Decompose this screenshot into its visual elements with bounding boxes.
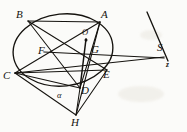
geometry-figure: A B C D E F G H O S α z — [0, 0, 187, 132]
point-label-H: H — [71, 117, 79, 128]
ray-S-upper — [147, 12, 168, 61]
point-label-C: C — [3, 70, 10, 81]
z-ray-group — [147, 12, 168, 61]
figure-canvas — [0, 0, 187, 132]
segment-C-H — [15, 73, 76, 115]
point-markers-group — [85, 39, 88, 42]
center-point-O-dot — [85, 39, 88, 42]
point-label-A: A — [101, 9, 108, 20]
point-label-F: F — [38, 45, 45, 56]
segment-F-S — [44, 52, 164, 58]
point-label-O: O — [82, 28, 88, 37]
z-axis-label: z — [166, 61, 169, 69]
point-label-E: E — [103, 69, 110, 80]
point-label-D: D — [81, 85, 89, 96]
point-label-G: G — [91, 44, 99, 55]
point-label-S: S — [157, 42, 163, 53]
angle-label-alpha: α — [57, 91, 61, 100]
point-label-B: B — [16, 9, 23, 20]
chord-B-A — [28, 21, 100, 22]
